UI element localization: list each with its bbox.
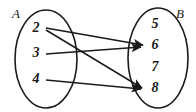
element-a-3: 3: [32, 45, 40, 60]
element-b-8: 8: [152, 80, 159, 95]
element-b-6: 6: [152, 37, 159, 52]
set-a-label: A: [11, 6, 20, 21]
set-b-label: B: [176, 6, 184, 21]
arrow-3-to-6: [46, 47, 141, 54]
element-b-5: 5: [152, 16, 159, 31]
mapping-diagram: A B 2 3 4 5 6 7 8: [0, 0, 196, 112]
element-a-4: 4: [32, 71, 40, 86]
element-a-2: 2: [32, 20, 40, 35]
element-b-7: 7: [152, 59, 160, 74]
arrow-4-to-8: [46, 80, 141, 89]
set-a-ellipse: [15, 10, 77, 108]
mapping-diagram-canvas: A B 2 3 4 5 6 7 8: [0, 0, 196, 112]
arrow-2-to-6: [46, 28, 143, 45]
